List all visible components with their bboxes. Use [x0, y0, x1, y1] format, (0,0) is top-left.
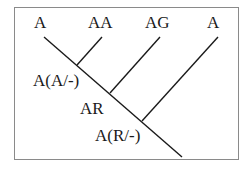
leaf-label-a-right: A [207, 14, 219, 31]
leaf-label-aa: AA [88, 14, 113, 31]
node-label-a-a: A(A/-) [33, 72, 79, 89]
branch-a-right [142, 37, 218, 121]
branch-ag [110, 37, 160, 93]
leaf-label-a-left: A [34, 14, 46, 31]
node-label-a-r: A(R/-) [95, 127, 140, 144]
branch-aa [77, 37, 102, 65]
leaf-label-ag: AG [145, 14, 170, 31]
node-label-ar: AR [80, 100, 104, 117]
